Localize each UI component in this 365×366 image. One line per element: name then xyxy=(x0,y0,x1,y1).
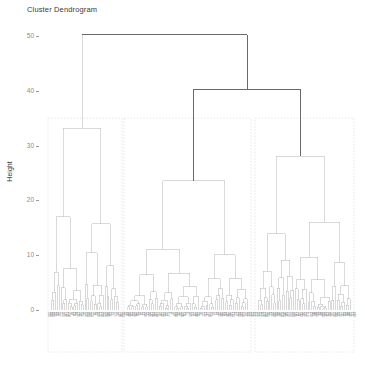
cluster-dendrogram-plot: Cluster Dendrogram Height 01020304050 37… xyxy=(0,0,365,366)
dendrogram-root-links xyxy=(82,35,300,181)
dendrogram-canvas xyxy=(0,0,365,366)
cluster-box xyxy=(255,118,354,352)
cluster-box xyxy=(124,118,251,352)
cluster-box xyxy=(48,118,122,352)
cluster-boxes xyxy=(48,118,354,352)
dendrogram-links xyxy=(52,128,350,310)
